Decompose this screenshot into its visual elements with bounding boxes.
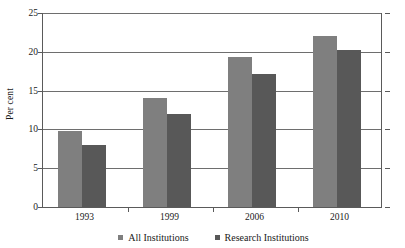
x-axis-tick-label: 2010 bbox=[330, 212, 349, 222]
bar-chart: Per cent 0510152025 1993199920062010 All… bbox=[0, 0, 405, 248]
y-axis-tick bbox=[38, 207, 43, 208]
chart-legend: All InstitutionsResearch Institutions bbox=[0, 229, 405, 245]
x-axis-tick-label: 1993 bbox=[75, 212, 94, 222]
legend-swatch-icon bbox=[215, 235, 220, 240]
bar bbox=[313, 36, 337, 207]
y-axis-tick-right bbox=[385, 129, 390, 130]
legend-label: Research Institutions bbox=[225, 232, 309, 243]
bar-group bbox=[128, 13, 213, 207]
bar bbox=[228, 57, 252, 207]
legend-item[interactable]: All Institutions bbox=[118, 232, 188, 243]
bar-group bbox=[213, 13, 298, 207]
y-axis-tick-right bbox=[385, 207, 390, 208]
bar bbox=[337, 50, 361, 207]
legend-label: All Institutions bbox=[128, 232, 188, 243]
y-axis-tick-right bbox=[385, 168, 390, 169]
y-axis-title-label: Per cent bbox=[5, 88, 15, 120]
bar bbox=[167, 114, 191, 207]
y-axis-tick-right bbox=[385, 91, 390, 92]
y-axis-tick-right bbox=[385, 52, 390, 53]
bar bbox=[82, 145, 106, 207]
x-axis-tick-label: 1999 bbox=[160, 212, 179, 222]
x-axis-tick-label: 2006 bbox=[245, 212, 264, 222]
bar-group bbox=[43, 13, 128, 207]
y-axis-tick-label: 25 bbox=[29, 8, 39, 18]
y-axis-tick-label: 15 bbox=[29, 86, 39, 96]
y-axis-tick-right bbox=[385, 13, 390, 14]
bar-group bbox=[298, 13, 383, 207]
bar bbox=[252, 74, 276, 207]
bar bbox=[143, 98, 167, 207]
y-axis-title: Per cent bbox=[2, 0, 18, 208]
plot-area bbox=[42, 13, 382, 208]
y-axis-tick-labels: 0510152025 bbox=[18, 0, 38, 208]
bar bbox=[58, 131, 82, 207]
x-axis-tick-labels: 1993199920062010 bbox=[42, 210, 382, 226]
y-axis-tick-label: 20 bbox=[29, 47, 39, 57]
legend-item[interactable]: Research Institutions bbox=[215, 232, 309, 243]
legend-swatch-icon bbox=[118, 235, 123, 240]
y-axis-tick-label: 10 bbox=[29, 124, 39, 134]
